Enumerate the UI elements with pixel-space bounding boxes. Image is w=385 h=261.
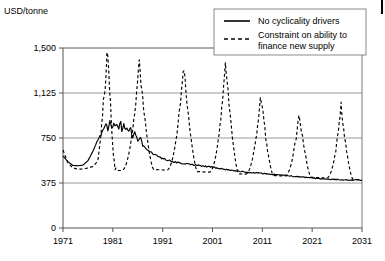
y-tick-label: 1,125 [33, 88, 56, 98]
legend-label-constraint-line1: Constraint on ability to [258, 30, 347, 40]
x-tick-label: 2001 [202, 236, 222, 246]
x-tick-label: 2021 [302, 236, 322, 246]
data-series [63, 52, 362, 180]
x-tick-label: 2031 [352, 236, 372, 246]
y-tick-label: 0 [51, 223, 56, 233]
x-tick-label: 1981 [103, 236, 123, 246]
legend-label-no-cyclicality-drivers: No cyclicality drivers [258, 16, 340, 26]
y-tick-label: 375 [41, 178, 56, 188]
chart-legend[interactable]: No cyclicality driversConstraint on abil… [214, 9, 366, 55]
y-tick-labels: 03757501,1251,500 [33, 43, 56, 233]
x-tick-labels: 1971198119912001201120212031 [53, 236, 372, 246]
axis-ticks [59, 48, 362, 232]
chart-figure: 03757501,1251,500 1971198119912001201120… [0, 0, 385, 261]
gridlines [63, 48, 362, 183]
y-tick-label: 750 [41, 133, 56, 143]
x-tick-label: 1971 [53, 236, 73, 246]
x-tick-label: 2011 [253, 236, 272, 246]
x-tick-label: 1991 [153, 236, 173, 246]
series-constraint-on-ability-to-finance-new-supply [63, 52, 362, 179]
y-tick-label: 1,500 [33, 43, 56, 53]
legend-label-constraint-line2: finance new supply [258, 41, 335, 51]
series-no-cyclicality-drivers [63, 121, 362, 181]
